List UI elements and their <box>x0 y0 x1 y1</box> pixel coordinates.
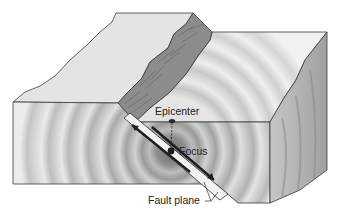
epicenter-point <box>169 119 175 123</box>
fault-plane-label: Fault plane <box>148 194 200 206</box>
epicenter-label: Epicenter <box>155 105 200 117</box>
focus-point <box>168 148 175 155</box>
earthquake-fault-diagram: Epicenter Focus Fault plane <box>0 0 338 216</box>
focus-label: Focus <box>179 145 208 157</box>
